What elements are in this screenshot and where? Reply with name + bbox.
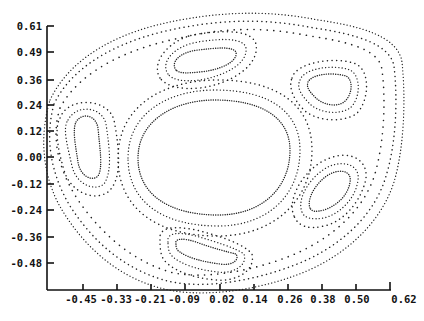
y-tick-label: -0.36 — [10, 231, 42, 243]
y-tick-label: -0.12 — [10, 178, 42, 190]
x-tick-label: -0.45 — [65, 293, 97, 305]
x-tick-label: 0.50 — [344, 293, 369, 305]
bottom-island — [160, 228, 253, 281]
lower-right-island — [292, 155, 366, 227]
y-tick-label: 0.12 — [17, 125, 42, 137]
x-tick-label: 0.26 — [277, 293, 302, 305]
x-tick-label: 0.38 — [310, 293, 335, 305]
y-tick-label: 0.36 — [17, 74, 42, 86]
x-tick-label: -0.09 — [168, 293, 200, 305]
y-tick-label: -0.24 — [10, 204, 42, 216]
x-tick-label: 0.02 — [209, 293, 234, 305]
y-tick-label: 0.00 — [17, 151, 42, 163]
upper-right-island — [291, 60, 367, 119]
top-island — [157, 32, 256, 89]
poincare-section-chart: 0.61 0.49 0.36 0.24 0.12 0.00 -0.12 -0.2… — [0, 0, 424, 321]
x-tick-label: -0.21 — [134, 293, 166, 305]
x-tick-label: 0.62 — [391, 293, 416, 305]
left-island — [57, 102, 119, 195]
y-tick-label: 0.61 — [17, 20, 42, 32]
central-island — [118, 80, 312, 236]
x-ticks: -0.45 -0.33 -0.21 -0.09 0.02 0.14 0.26 0… — [65, 282, 416, 305]
x-tick-label: 0.14 — [242, 293, 267, 305]
x-tick-label: -0.33 — [100, 293, 132, 305]
y-tick-label: 0.49 — [17, 46, 42, 58]
y-tick-label: 0.24 — [17, 99, 42, 111]
axes — [47, 26, 391, 290]
y-tick-label: -0.48 — [10, 257, 42, 269]
